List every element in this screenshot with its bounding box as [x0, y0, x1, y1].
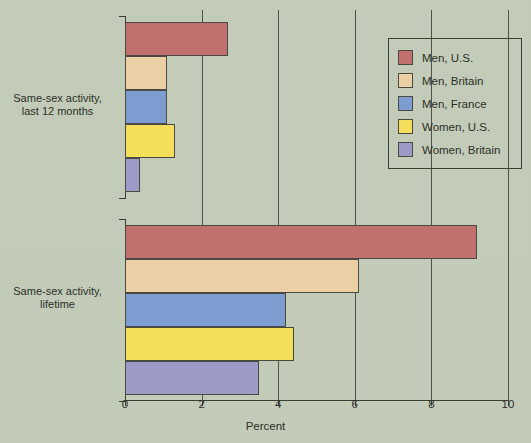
y-axis-tick	[119, 16, 126, 17]
legend-swatch	[398, 96, 413, 111]
legend-item: Men, Britain	[389, 69, 521, 92]
bar	[125, 225, 477, 259]
category-label-last-12-months: Same-sex activity, last 12 months	[0, 92, 115, 118]
legend-item: Women, Britain	[389, 138, 521, 161]
legend-swatch	[398, 73, 413, 88]
bar	[125, 56, 167, 90]
legend-swatch	[398, 50, 413, 65]
category-label-line: Same-sex activity,	[0, 285, 115, 298]
gridline	[355, 10, 356, 400]
x-axis-tick-label: 8	[428, 398, 434, 410]
x-axis-tick-label: 4	[275, 398, 281, 410]
y-axis-tick	[119, 198, 126, 199]
bar	[125, 259, 359, 293]
bar-chart: Same-sex activity, last 12 months Same-s…	[0, 0, 531, 443]
legend-label: Men, U.S.	[422, 52, 473, 64]
legend-label: Women, Britain	[422, 144, 500, 156]
legend-item: Men, France	[389, 92, 521, 115]
x-axis-line	[125, 400, 508, 401]
x-axis-tick-label: 2	[198, 398, 204, 410]
bar	[125, 90, 167, 124]
bar	[125, 158, 140, 192]
category-label-lifetime: Same-sex activity, lifetime	[0, 285, 115, 311]
legend-swatch	[398, 142, 413, 157]
bar	[125, 124, 175, 158]
x-axis-tick-label: 6	[352, 398, 358, 410]
bar	[125, 327, 294, 361]
legend-item: Women, U.S.	[389, 115, 521, 138]
legend-label: Men, France	[422, 98, 487, 110]
bar	[125, 361, 259, 395]
legend: Men, U.S.Men, BritainMen, FranceWomen, U…	[388, 38, 522, 169]
category-label-line: last 12 months	[0, 105, 115, 118]
legend-swatch	[398, 119, 413, 134]
bar	[125, 293, 286, 327]
legend-label: Women, U.S.	[422, 121, 490, 133]
bar	[125, 22, 228, 56]
category-label-line: lifetime	[0, 298, 115, 311]
x-axis-tick-label: 0	[122, 398, 128, 410]
category-label-line: Same-sex activity,	[0, 92, 115, 105]
x-axis-tick-label: 10	[502, 398, 515, 410]
y-axis-tick	[119, 219, 126, 220]
x-axis-title: Percent	[0, 420, 531, 432]
legend-item: Men, U.S.	[389, 46, 521, 69]
legend-label: Men, Britain	[422, 75, 483, 87]
